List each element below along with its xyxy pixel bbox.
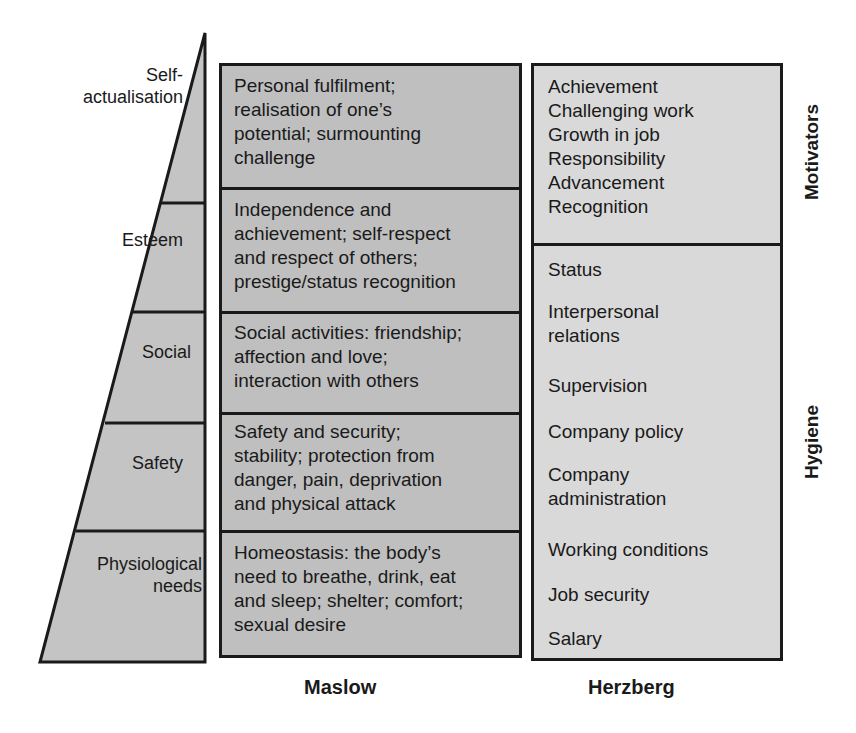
maslow-cell-safety: Safety and security; stability; protecti… [222,415,519,533]
motivator-item: Recognition [548,195,780,219]
cell-text-line: Safety and security; [234,420,519,444]
hygiene-item-line: Company [548,463,666,487]
hygiene-label: Hygiene [801,402,823,482]
pyramid-level-self-actualisation: Self- actualisation [40,64,183,108]
herzberg-column: Achievement Challenging work Growth in j… [531,63,783,661]
hygiene-item: Supervision [548,374,647,398]
pyramid-label-line: actualisation [40,86,183,108]
pyramid-label-line: Self- [40,64,183,86]
pyramid-level-social: Social [40,341,191,363]
hygiene-item: Job security [548,583,649,607]
hygiene-item: Interpersonal relations [548,300,659,348]
pyramid-label-line: Physiological [40,553,202,575]
motivators-label: Motivators [801,97,823,207]
cell-text-line: Personal fulfilment; [234,74,519,98]
maslow-cell-self-actualisation: Personal fulfilment; realisation of one’… [222,66,519,190]
maslow-title: Maslow [304,676,376,699]
hygiene-item: Salary [548,627,602,651]
hygiene-item: Status [548,258,602,282]
pyramid-level-safety: Safety [40,452,183,474]
maslow-cell-social: Social activities: friendship; affection… [222,314,519,415]
cell-text-line: challenge [234,146,519,170]
maslow-cell-physiological: Homeostasis: the body’s need to breathe,… [222,533,519,655]
cell-text-line: stability; protection from [234,444,519,468]
motivator-item: Growth in job [548,123,780,147]
cell-text-line: and respect of others; [234,246,519,270]
cell-text-line: Independence and [234,198,519,222]
cell-text-line: and physical attack [234,492,519,516]
maslow-column: Personal fulfilment; realisation of one’… [219,63,522,658]
cell-text-line: interaction with others [234,369,519,393]
cell-text-line: affection and love; [234,345,519,369]
cell-text-line: and sleep; shelter; comfort; [234,589,519,613]
pyramid-label-line: needs [40,575,202,597]
hygiene-item-line: administration [548,487,666,511]
cell-text-line: achievement; self-respect [234,222,519,246]
cell-text-line: potential; surmounting [234,122,519,146]
cell-text-line: sexual desire [234,613,519,637]
cell-text-line: prestige/status recognition [234,270,519,294]
cell-text-line: Homeostasis: the body’s [234,541,519,565]
motivator-item: Responsibility [548,147,780,171]
motivator-item: Challenging work [548,99,780,123]
motivator-item: Advancement [548,171,780,195]
hygiene-item-line: relations [548,324,659,348]
cell-text-line: Social activities: friendship; [234,321,519,345]
herzberg-hygiene-box: Status Interpersonal relations Supervisi… [534,246,780,658]
motivator-item: Achievement [548,75,780,99]
hygiene-item: Working conditions [548,538,708,562]
herzberg-motivators-box: Achievement Challenging work Growth in j… [534,66,780,246]
maslow-cell-esteem: Independence and achievement; self-respe… [222,190,519,314]
cell-text-line: danger, pain, deprivation [234,468,519,492]
pyramid-level-physiological: Physiological needs [40,553,202,597]
cell-text-line: realisation of one’s [234,98,519,122]
cell-text-line: need to breathe, drink, eat [234,565,519,589]
pyramid-level-esteem: Esteem [40,229,183,251]
hygiene-item-line: Interpersonal [548,300,659,324]
hygiene-item: Company policy [548,420,683,444]
herzberg-title: Herzberg [588,676,675,699]
hygiene-item: Company administration [548,463,666,511]
